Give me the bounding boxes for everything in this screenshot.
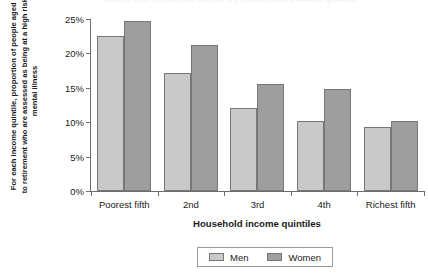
clipped-chart-title: Chart: risk of mental illness by househo… <box>104 0 424 4</box>
legend-swatch-women-icon <box>267 253 282 261</box>
bar-men-4 <box>297 121 324 191</box>
y-axis-tick-label: 10% <box>65 117 84 128</box>
plot-area: 0%5%10%15%20%25%Poorest fifth2nd3rd4thRi… <box>90 19 424 192</box>
bar-chart-figure: Chart: risk of mental illness by househo… <box>0 0 428 273</box>
x-axis-tick <box>158 191 159 196</box>
bar-group <box>291 19 358 191</box>
x-axis-category-label: Poorest fifth <box>99 199 150 210</box>
bar-men-3 <box>230 108 257 191</box>
legend-label-women: Women <box>288 252 321 263</box>
bar-group <box>224 19 291 191</box>
bar-men-5 <box>364 127 391 191</box>
legend-entry-men: Men <box>209 252 248 263</box>
y-axis-title-container: For each income quintile, proportion of … <box>0 0 50 194</box>
y-axis-tick-label: 0% <box>70 186 84 197</box>
bar-women-2 <box>191 45 218 191</box>
y-axis-title: For each income quintile, proportion of … <box>9 0 40 194</box>
bar-group <box>158 19 225 191</box>
bar-group <box>91 19 158 191</box>
chart-legend: Men Women <box>197 247 333 267</box>
bar-group <box>357 19 424 191</box>
x-axis-tick <box>291 191 292 196</box>
legend-entry-women: Women <box>267 252 321 263</box>
bar-women-5 <box>391 121 418 191</box>
x-axis-category-label: Richest fifth <box>366 199 416 210</box>
legend-label-men: Men <box>230 252 248 263</box>
bar-women-1 <box>124 21 151 191</box>
bar-men-2 <box>164 73 191 191</box>
x-axis-tick <box>224 191 225 196</box>
x-axis-tick <box>424 191 425 196</box>
x-axis-category-label: 4th <box>317 199 330 210</box>
y-axis-tick-label: 15% <box>65 82 84 93</box>
x-axis-title: Household income quintiles <box>90 218 424 229</box>
bar-women-3 <box>257 84 284 191</box>
y-axis-tick-label: 20% <box>65 48 84 59</box>
bar-women-4 <box>324 89 351 191</box>
y-axis-tick-label: 5% <box>70 151 84 162</box>
legend-swatch-men-icon <box>209 253 224 261</box>
x-axis-tick <box>357 191 358 196</box>
x-axis-tick <box>91 191 92 196</box>
x-axis-category-label: 3rd <box>251 199 265 210</box>
x-axis-category-label: 2nd <box>183 199 199 210</box>
bar-men-1 <box>97 36 124 191</box>
y-axis-tick-label: 25% <box>65 14 84 25</box>
